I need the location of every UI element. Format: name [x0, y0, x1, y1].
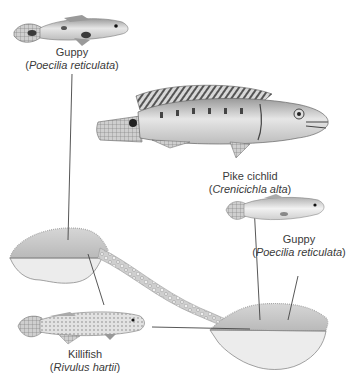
scientific-name: Crenicichla alta	[212, 183, 287, 195]
pike-cichlid-illustration	[97, 85, 329, 158]
downstream-pool	[210, 304, 328, 370]
common-name: Guppy	[56, 46, 88, 58]
scientific-name: Rivulus hartii	[54, 361, 117, 373]
common-name: Guppy	[283, 233, 315, 245]
label-pike-cichlid: Pike cichlid (Crenicichla alta)	[200, 170, 300, 196]
label-guppy-right: Guppy (Poecilia reticulata)	[244, 233, 354, 259]
common-name: Killifish	[68, 348, 102, 360]
guppy-right-illustration	[226, 194, 324, 220]
killifish-illustration	[18, 312, 145, 344]
label-guppy-top: Guppy (Poecilia reticulata)	[22, 46, 122, 72]
leader-guppy-top	[68, 74, 72, 240]
label-killifish: Killifish (Rivulus hartii)	[40, 348, 130, 374]
upstream-pool	[10, 228, 108, 283]
scientific-name: Poecilia reticulata	[256, 246, 342, 258]
scientific-name: Poecilia reticulata	[29, 59, 115, 71]
leader-pike-cichlid	[254, 205, 260, 320]
common-name: Pike cichlid	[222, 170, 277, 182]
guppy-top-illustration	[14, 15, 128, 46]
